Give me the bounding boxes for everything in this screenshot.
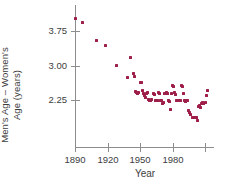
x-axis-tick	[140, 143, 141, 152]
y-axis-tick-label: 3.00	[33, 61, 67, 71]
data-point	[81, 21, 84, 24]
x-axis-line	[75, 147, 214, 148]
y-axis-line	[75, 5, 76, 143]
data-point	[206, 89, 209, 92]
scatter-chart: Men's Age – Women's Age (years) Year 2.2…	[0, 0, 231, 190]
data-point	[162, 101, 165, 104]
y-axis-tick	[71, 100, 80, 101]
data-point	[205, 94, 208, 97]
x-axis-tick-label: 1920	[92, 155, 124, 165]
data-point	[179, 99, 182, 102]
data-point	[74, 17, 77, 20]
y-axis-tick-label: 2.25	[33, 95, 67, 105]
data-point	[158, 92, 161, 95]
data-point	[153, 93, 156, 96]
x-axis-tick	[173, 143, 174, 152]
data-point	[115, 64, 118, 67]
data-point	[104, 44, 107, 47]
data-point	[169, 108, 172, 111]
data-point	[166, 92, 169, 95]
data-point	[129, 56, 132, 59]
data-point	[181, 85, 184, 88]
x-axis-tick	[75, 143, 76, 152]
data-point	[199, 106, 202, 109]
x-axis-tick	[108, 143, 109, 152]
data-point	[150, 98, 153, 101]
data-point	[126, 76, 129, 79]
data-point	[146, 91, 149, 94]
data-point	[137, 91, 140, 94]
y-axis-tick-label: 3.75	[33, 26, 67, 36]
data-point	[174, 93, 177, 96]
data-point	[168, 100, 171, 103]
x-axis-tick-label: 1890	[59, 155, 91, 165]
plot-area: 2.253.003.751890192019501980	[0, 0, 231, 190]
x-axis-tick-label: 1950	[124, 155, 156, 165]
x-axis-tick	[205, 143, 206, 152]
data-point	[186, 99, 189, 102]
data-point	[140, 81, 143, 84]
x-axis-tick-label: 1980	[157, 155, 189, 165]
data-point	[204, 101, 207, 104]
data-point	[172, 85, 175, 88]
data-point	[95, 39, 98, 42]
y-axis-tick	[71, 66, 80, 67]
data-point	[196, 119, 199, 122]
data-point	[182, 92, 185, 95]
y-axis-tick	[71, 31, 80, 32]
data-point	[133, 75, 136, 78]
